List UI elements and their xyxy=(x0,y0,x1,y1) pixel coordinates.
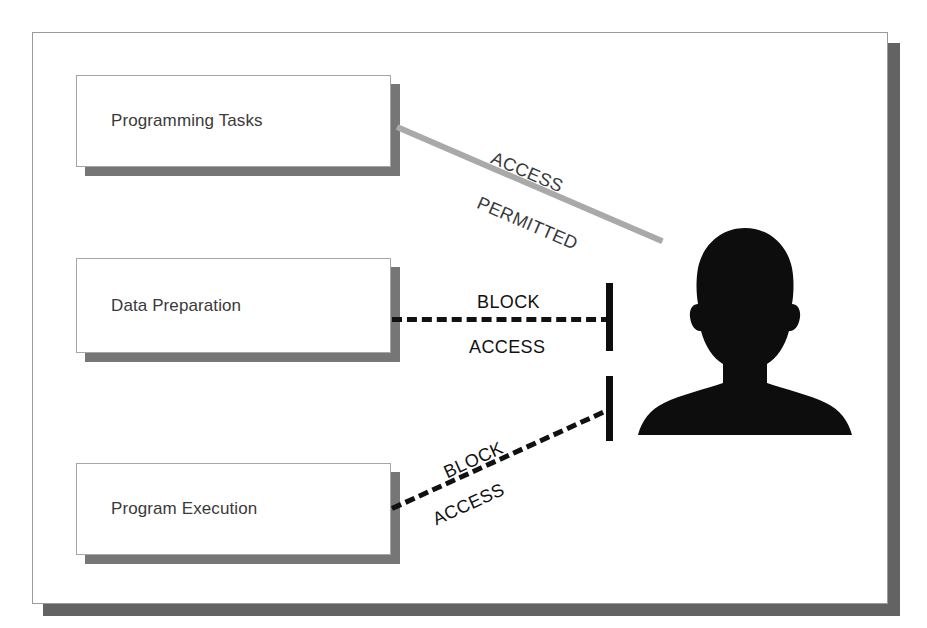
connector-block-access-data-preparation xyxy=(392,317,611,322)
person-silhouette-icon xyxy=(634,222,856,438)
process-box-label: Data Preparation xyxy=(77,296,241,316)
block-bar-data-preparation xyxy=(606,283,613,351)
box-body: Data Preparation xyxy=(76,258,391,353)
box-body: Programming Tasks xyxy=(76,75,391,167)
box-body: Program Execution xyxy=(76,463,391,555)
process-box-programming-tasks[interactable]: Programming Tasks xyxy=(76,75,391,167)
diagram-canvas: Programming Tasks Data Preparation Progr… xyxy=(0,0,927,628)
process-box-label: Programming Tasks xyxy=(77,111,263,131)
process-box-label: Program Execution xyxy=(77,499,257,519)
connector-label-block-data-preparation-line1: BLOCK xyxy=(477,292,540,313)
process-box-data-preparation[interactable]: Data Preparation xyxy=(76,258,391,353)
connector-label-block-data-preparation-line2: ACCESS xyxy=(469,337,545,358)
block-bar-program-execution xyxy=(606,376,613,441)
process-box-program-execution[interactable]: Program Execution xyxy=(76,463,391,555)
